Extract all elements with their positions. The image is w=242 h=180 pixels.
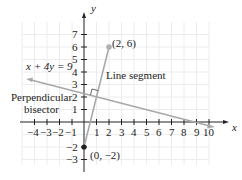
y-tick-neg2: −2 bbox=[66, 142, 78, 153]
x-tick-9: 9 bbox=[194, 127, 200, 138]
x-axis-label: x bbox=[232, 122, 237, 133]
x-tick-5: 5 bbox=[144, 127, 150, 138]
point-b-marker bbox=[81, 144, 86, 149]
y-axis-arrow-icon bbox=[82, 12, 86, 18]
x-tick-10: 10 bbox=[203, 127, 214, 138]
y-tick-2: 2 bbox=[72, 92, 78, 103]
line-segment-label: Line segment bbox=[106, 70, 166, 81]
y-tick-1: 1 bbox=[72, 104, 78, 115]
y-tick-6: 6 bbox=[72, 42, 78, 53]
point-b-label: (0, −2) bbox=[90, 150, 120, 161]
x-tick-4: 4 bbox=[131, 127, 137, 138]
bisector-left-arrow-icon bbox=[26, 78, 33, 83]
graph-canvas bbox=[0, 0, 242, 180]
x-tick-1: 1 bbox=[94, 127, 100, 138]
bisector-label-line2: bisector bbox=[24, 104, 59, 115]
equation-label: x + 4y = 9 bbox=[26, 61, 73, 72]
y-tick-7: 7 bbox=[72, 29, 78, 40]
x-tick-7: 7 bbox=[169, 127, 175, 138]
x-tick-neg2: −2 bbox=[52, 127, 64, 138]
y-tick-3: 3 bbox=[72, 79, 78, 90]
x-tick-8: 8 bbox=[181, 127, 187, 138]
y-tick-neg3: −3 bbox=[66, 154, 78, 165]
x-axis bbox=[20, 119, 229, 125]
point-a-label: (2, 6) bbox=[112, 38, 136, 49]
point-a-marker bbox=[106, 44, 112, 50]
bisector-label-line1: Perpendicular bbox=[11, 92, 72, 103]
x-tick-neg1: −1 bbox=[65, 127, 77, 138]
x-tick-neg4: −4 bbox=[27, 127, 39, 138]
x-tick-2: 2 bbox=[106, 127, 112, 138]
x-tick-neg3: −3 bbox=[40, 127, 52, 138]
x-tick-6: 6 bbox=[156, 127, 162, 138]
y-axis-label: y bbox=[91, 3, 96, 14]
coordinate-plane-figure: y x 7 6 5 4 3 2 1 −2 −3 −4 −3 −2 −1 1 2 … bbox=[0, 0, 242, 180]
x-tick-3: 3 bbox=[119, 127, 125, 138]
x-axis-arrow-icon bbox=[223, 120, 229, 124]
